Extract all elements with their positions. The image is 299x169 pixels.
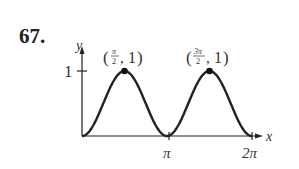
svg-text:(: ( (186, 48, 192, 67)
annotation-max-2: ( 3π 2 , 1 ) (186, 47, 229, 67)
x-tick-label-2pi: 2π (242, 145, 258, 161)
sine-squared-curve (82, 71, 252, 136)
svg-text:π: π (112, 47, 117, 56)
x-axis-arrow-icon (255, 134, 263, 139)
y-axis-label: y (74, 38, 83, 53)
svg-text:1: 1 (214, 49, 222, 66)
y-tick-label-1: 1 (64, 62, 73, 81)
sine-squared-graph: y x 1 π 2π ( π 2 , 1 ) ( 3π 2 , 1 ) (0, 0, 299, 169)
svg-text:1: 1 (128, 49, 136, 66)
x-axis-label: x (265, 129, 273, 144)
maximum-point-2 (206, 68, 213, 75)
maximum-point-1 (121, 68, 128, 75)
svg-text:2: 2 (196, 57, 200, 66)
svg-text:,: , (120, 50, 124, 66)
x-tick-label-pi: π (163, 145, 171, 161)
svg-text:): ) (223, 48, 229, 67)
y-axis (77, 46, 87, 136)
svg-text:3π: 3π (193, 47, 203, 56)
svg-text:,: , (206, 50, 210, 66)
svg-text:(: ( (103, 48, 109, 67)
svg-text:2: 2 (112, 57, 116, 66)
svg-text:): ) (137, 48, 143, 67)
annotation-max-1: ( π 2 , 1 ) (103, 47, 143, 67)
